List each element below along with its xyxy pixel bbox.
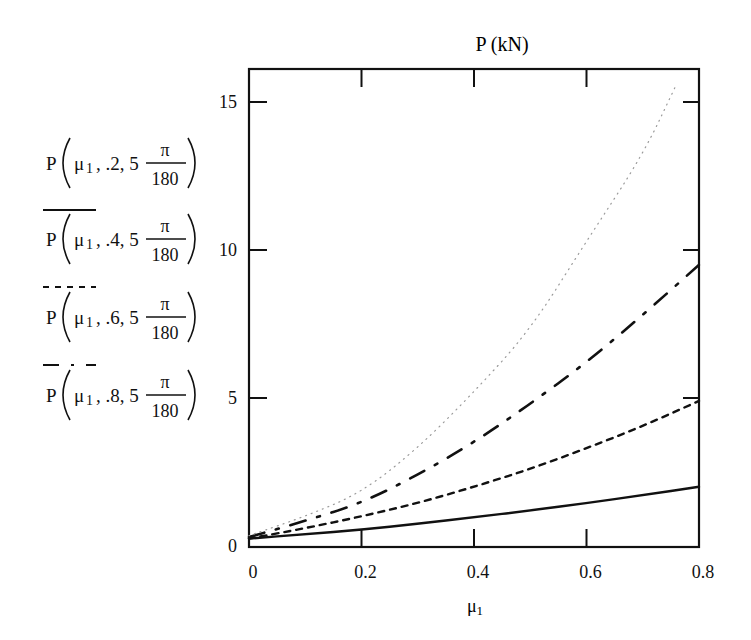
svg-text:π: π	[160, 140, 169, 160]
legend: Pμ1, .2, 5π180Pμ1, .4, 5π180Pμ1, .6, 5π1…	[43, 138, 195, 421]
plot-frame	[249, 69, 699, 547]
chart: P (kN) 00.20.40.60.8051015 μ1 Pμ1, .2, 5…	[0, 0, 751, 640]
legend-entry: Pμ1, .8, 5π180	[46, 370, 195, 421]
svg-text:180: 180	[152, 245, 179, 265]
svg-text:μ: μ	[74, 307, 84, 328]
x-tick-label: 0.6	[579, 562, 602, 582]
svg-text:, .6, 5: , .6, 5	[96, 307, 139, 328]
svg-text:1: 1	[86, 393, 93, 408]
svg-text:, .8, 5: , .8, 5	[96, 385, 139, 406]
svg-text:180: 180	[152, 401, 179, 421]
svg-text:, .4, 5: , .4, 5	[96, 229, 139, 250]
x-tick-label: 0.8	[692, 562, 715, 582]
svg-text:P: P	[46, 307, 57, 328]
svg-text:1: 1	[86, 161, 93, 176]
svg-text:1: 1	[86, 315, 93, 330]
tick-labels: 00.20.40.60.8051015	[219, 92, 714, 582]
x-axis-label: μ1	[467, 596, 483, 618]
svg-text:, .2, 5: , .2, 5	[96, 153, 139, 174]
y-tick-label: 15	[219, 92, 237, 112]
svg-text:μ: μ	[74, 385, 84, 406]
svg-text:180: 180	[152, 169, 179, 189]
axis-ticks	[249, 69, 699, 547]
legend-entry: Pμ1, .4, 5π180	[43, 214, 195, 287]
y-tick-label: 5	[228, 388, 237, 408]
chart-title: P (kN)	[475, 33, 528, 56]
curve-dotted	[249, 84, 677, 535]
svg-text:P: P	[46, 385, 57, 406]
svg-text:P: P	[46, 153, 57, 174]
svg-text:μ: μ	[74, 229, 84, 250]
svg-text:π: π	[160, 372, 169, 392]
svg-text:180: 180	[152, 323, 179, 343]
x-tick-label: 0.2	[354, 562, 377, 582]
y-tick-label: 10	[219, 240, 237, 260]
svg-text:π: π	[160, 216, 169, 236]
y-tick-label: 0	[228, 536, 237, 556]
x-tick-label: 0.4	[467, 562, 490, 582]
plot-curves	[249, 84, 699, 538]
x-tick-label: 0	[249, 562, 258, 582]
svg-text:π: π	[160, 294, 169, 314]
svg-text:μ: μ	[74, 153, 84, 174]
svg-text:P: P	[46, 229, 57, 250]
legend-entry: Pμ1, .2, 5π180	[43, 138, 195, 210]
legend-entry: Pμ1, .6, 5π180	[43, 292, 195, 365]
svg-text:1: 1	[86, 237, 93, 252]
